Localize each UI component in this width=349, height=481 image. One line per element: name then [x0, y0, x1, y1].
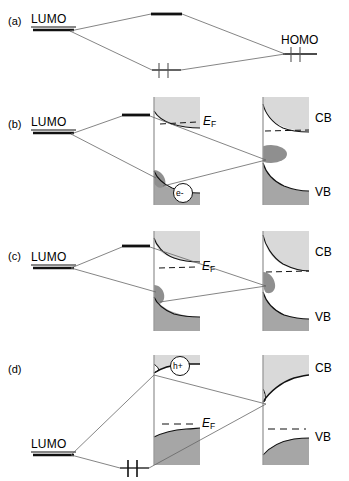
panel-b-fermi-symbol: E	[203, 114, 211, 128]
panel-b-cb-label: CB	[315, 111, 332, 125]
panel-d-fermi-subscript: F	[210, 421, 215, 431]
panel-d-lumo-label: LUMO	[31, 437, 66, 451]
panel-b-vb-label: VB	[315, 185, 331, 199]
panel-d-hole-label: h+	[173, 361, 183, 371]
panel-b-right-surface-state	[255, 145, 287, 163]
panel-b-left-cb-fill	[154, 97, 200, 128]
panel-c-fermi-label: EF	[202, 259, 215, 273]
panel-c-right-surface-state	[263, 272, 275, 293]
panel-d-line-lumo-to-cbsurface	[71, 375, 154, 455]
panel-c-left-semiconductor	[154, 231, 200, 331]
panel-c-line-lumo-to-antibonding	[71, 247, 122, 268]
panel-a-lumo-label: LUMO	[31, 12, 66, 26]
panel-c-line-vbsurface-to-right	[160, 286, 266, 302]
panel-d-fermi-label: EF	[202, 416, 215, 430]
panel-a-correlation-lumo-bonding	[70, 31, 152, 70]
panel-b-line-lumo-to-vbsurface	[71, 134, 156, 178]
panel-a	[31, 14, 317, 78]
panel-b-fermi-label: EF	[203, 114, 216, 128]
panel-d-line-cbsurface-to-right	[154, 375, 266, 404]
panel-c-fermi-subscript: F	[210, 264, 215, 274]
energy-level-diagram: (a) LUMO HOMO (b) LUMO EF CB VB e- (c) L…	[0, 0, 349, 481]
panel-d-cb-label: CB	[315, 361, 332, 375]
panel-c-letter: (c)	[8, 250, 21, 262]
panel-a-correlation-antibonding-homo	[182, 14, 285, 54]
panel-b-lumo-label: LUMO	[31, 115, 66, 129]
panel-c-vb-label: VB	[315, 310, 331, 324]
panel-d	[31, 355, 309, 477]
panel-a-correlation-bonding-homo	[181, 54, 285, 70]
panel-d-fermi-symbol: E	[202, 416, 210, 430]
panel-d-right-semiconductor	[256, 355, 309, 465]
panel-c-lumo-label: LUMO	[31, 250, 66, 264]
panel-c	[31, 231, 309, 331]
panel-b-letter: (b)	[8, 118, 21, 130]
panel-c-line-lumo-to-vbsurface	[71, 268, 156, 292]
panel-d-right-vb-fill	[263, 438, 309, 465]
panel-b-electron-label: e-	[176, 188, 184, 198]
panel-d-right-cb-fill	[263, 355, 309, 402]
panel-b-right-cb-fill	[263, 97, 309, 132]
panel-d-line-lumo-to-bonding	[71, 455, 120, 468]
panel-a-correlation-lumo-antibonding	[70, 14, 151, 31]
panel-c-right-fermi-level	[266, 271, 309, 272]
panel-b-right-vb-fill	[263, 163, 309, 205]
panel-d-letter: (d)	[8, 363, 21, 375]
panel-b	[31, 97, 309, 205]
panel-c-left-surface-state	[154, 285, 164, 304]
panel-b-fermi-subscript: F	[211, 119, 216, 129]
panel-c-right-vb-fill	[263, 292, 309, 331]
panel-b-line-vbsurface-to-right	[163, 160, 266, 186]
panel-a-homo-label: HOMO	[281, 33, 318, 47]
panel-b-line-lumo-to-antibonding	[71, 116, 122, 134]
panel-c-fermi-symbol: E	[202, 259, 210, 273]
panel-a-letter: (a)	[8, 15, 21, 27]
panel-c-cb-label: CB	[315, 245, 332, 259]
panel-c-left-cb-fill	[154, 231, 200, 262]
panel-c-fermi-level	[159, 267, 196, 268]
diagram-canvas	[0, 0, 349, 481]
panel-d-vb-label: VB	[315, 430, 331, 444]
